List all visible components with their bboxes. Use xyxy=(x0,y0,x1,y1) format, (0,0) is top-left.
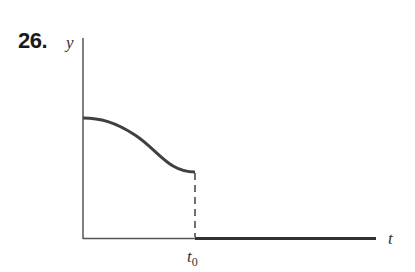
x-axis-label: t xyxy=(388,229,394,248)
t0-tick-label: t0 xyxy=(187,247,198,269)
decreasing-curve xyxy=(83,118,195,172)
graph: y t t0 xyxy=(0,0,415,272)
y-axis-label: y xyxy=(64,33,74,52)
